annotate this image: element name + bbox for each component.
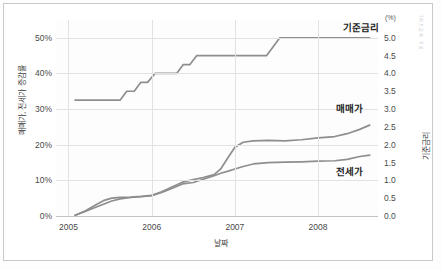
y-axis-right-title: 기준금리 xyxy=(420,132,431,160)
gridline-vertical xyxy=(152,20,153,216)
y-axis-left-tick-label: 10% xyxy=(0,175,58,185)
series-label-매매가: 매매가 xyxy=(336,101,363,115)
y-axis-left-tick-label: 30% xyxy=(0,104,58,114)
watermark-text: 그래프 출처 · 자료 xyxy=(418,14,424,50)
y-axis-right-tick-label: 4.0 xyxy=(384,68,414,78)
series-line-매매가 xyxy=(75,125,370,215)
x-axis-tick-label: 2007 xyxy=(225,222,244,232)
y-axis-right-tick-label: 3.0 xyxy=(384,104,414,114)
series-label-전세가: 전세가 xyxy=(336,164,363,178)
gridline-vertical xyxy=(68,20,69,216)
y-axis-right-tick-label: 2.0 xyxy=(384,140,414,150)
y-axis-right-tick-label: 2.5 xyxy=(384,122,414,132)
gridline-horizontal xyxy=(56,216,378,217)
gridline-vertical xyxy=(318,20,319,216)
series-line-기준금리 xyxy=(75,38,370,100)
plot-area xyxy=(56,20,378,216)
gridline-horizontal xyxy=(56,180,378,181)
y-axis-right-tick-label: 0.5 xyxy=(384,193,414,203)
x-axis-tick-label: 2008 xyxy=(309,222,328,232)
plot-svg xyxy=(56,20,378,216)
y-axis-left-title: 매매가, 전세가 증감률 xyxy=(16,65,27,135)
y-axis-right-tick-label: 3.5 xyxy=(384,86,414,96)
chart-figure: 0%10%20%30%40%50% 0.00.51.01.52.02.53.03… xyxy=(0,0,442,270)
series-label-기준금리: 기준금리 xyxy=(343,20,379,34)
y-axis-left-tick-label: 0% xyxy=(0,211,58,221)
x-axis-tick-label: 2005 xyxy=(59,222,78,232)
series-line-전세가 xyxy=(75,155,370,215)
y-axis-right-tick-label: 5.0 xyxy=(384,33,414,43)
gridline-horizontal xyxy=(56,73,378,74)
y-axis-right-tick-label: 4.5 xyxy=(384,51,414,61)
gridline-vertical xyxy=(235,20,236,216)
y-axis-right-tick-label: 0.0 xyxy=(384,211,414,221)
gridline-horizontal xyxy=(56,145,378,146)
gridline-horizontal xyxy=(56,38,378,39)
right-axis-unit-label: (%) xyxy=(385,14,396,21)
y-axis-left-tick-label: 50% xyxy=(0,33,58,43)
gridline-horizontal xyxy=(56,109,378,110)
x-axis-tick-label: 2006 xyxy=(142,222,161,232)
y-axis-right-tick-label: 1.5 xyxy=(384,158,414,168)
y-axis-left-tick-label: 20% xyxy=(0,140,58,150)
x-axis-title: 날짜 xyxy=(0,237,442,248)
y-axis-right-tick-label: 1.0 xyxy=(384,175,414,185)
y-axis-left-tick-label: 40% xyxy=(0,68,58,78)
